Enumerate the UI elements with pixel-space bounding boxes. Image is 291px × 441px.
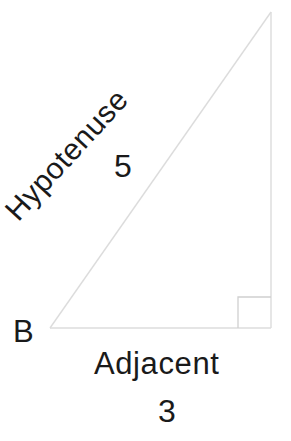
hypotenuse-value-label: 5 [114, 150, 132, 182]
adjacent-label: Adjacent [94, 348, 219, 379]
hypotenuse-line [50, 12, 271, 328]
diagram-canvas: Hypotenuse 5 B Adjacent 3 [0, 0, 291, 441]
right-angle-marker-icon [238, 297, 271, 328]
adjacent-value-label: 3 [158, 395, 176, 427]
vertex-b-label: B [13, 316, 34, 347]
